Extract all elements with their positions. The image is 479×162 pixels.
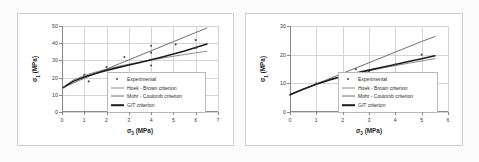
data-point-marker bbox=[106, 66, 108, 68]
legend-item-label: Hoek - Brown criterion bbox=[358, 84, 407, 93]
x-tick-label: 5 bbox=[172, 117, 175, 123]
chart-panel-left: ExperimentalHoek - Brown criterionMohr -… bbox=[17, 13, 234, 146]
legend-item-label: GIT criterion bbox=[127, 101, 154, 110]
x-tick-label: 3 bbox=[368, 117, 371, 123]
line-icon bbox=[342, 96, 355, 97]
y-tick bbox=[59, 60, 62, 61]
dot-icon bbox=[116, 78, 118, 80]
x-tick bbox=[448, 112, 449, 115]
legend-item: Experimental bbox=[111, 75, 202, 84]
x-tick-label: 0 bbox=[289, 117, 292, 123]
legend-item: GIT criterion bbox=[342, 101, 434, 110]
dot-icon bbox=[347, 78, 349, 80]
x-tick-label: 1 bbox=[83, 117, 86, 123]
y-tick bbox=[59, 112, 62, 113]
legend-marker-icon bbox=[111, 75, 124, 83]
x-axis-title: σ3 (MPa) bbox=[356, 127, 382, 136]
x-tick-label: 1 bbox=[315, 117, 318, 123]
y-axis-title: σ1 (MPa) bbox=[259, 56, 268, 82]
x-tick bbox=[316, 112, 317, 115]
line-icon bbox=[111, 96, 124, 97]
line-icon bbox=[111, 104, 124, 106]
y-tick-label: 50 bbox=[46, 23, 58, 29]
data-point-marker bbox=[123, 56, 125, 58]
y-axis-title: σ1 (MPa) bbox=[31, 56, 40, 82]
x-tick-label: 2 bbox=[341, 117, 344, 123]
x-tick bbox=[151, 112, 152, 115]
x-tick bbox=[129, 112, 130, 115]
y-tick bbox=[59, 78, 62, 79]
x-tick bbox=[107, 112, 108, 115]
legend-item: Hoek - Brown criterion bbox=[342, 84, 434, 93]
legend-line-icon bbox=[342, 92, 355, 100]
legend-item-label: Mohr - Coulomb criterion bbox=[127, 92, 182, 101]
y-tick bbox=[287, 55, 290, 56]
data-point-marker bbox=[150, 65, 152, 67]
x-tick-label: 6 bbox=[447, 117, 450, 123]
x-tick-label: 7 bbox=[217, 117, 220, 123]
x-tick bbox=[343, 112, 344, 115]
y-tick bbox=[59, 43, 62, 44]
x-tick-label: 0 bbox=[61, 117, 64, 123]
y-tick-label: 0 bbox=[274, 109, 286, 115]
legend-item-label: GIT criterion bbox=[358, 101, 385, 110]
y-tick-label: 0 bbox=[46, 109, 58, 115]
y-tick bbox=[287, 83, 290, 84]
data-point-marker bbox=[195, 39, 197, 41]
legend-item: GIT criterion bbox=[111, 101, 202, 110]
x-tick-label: 3 bbox=[127, 117, 130, 123]
legend-item: Mohr - Coulomb criterion bbox=[342, 92, 434, 101]
data-point-marker bbox=[150, 52, 152, 54]
legend-item: Hoek - Brown criterion bbox=[111, 84, 202, 93]
x-tick bbox=[196, 112, 197, 115]
legend-line-icon bbox=[342, 101, 355, 109]
data-point-marker bbox=[88, 80, 90, 82]
data-point-marker bbox=[150, 45, 152, 47]
legend-item: Experimental bbox=[342, 75, 434, 84]
legend-line-icon bbox=[111, 92, 124, 100]
y-tick bbox=[287, 112, 290, 113]
data-point-marker bbox=[195, 47, 197, 49]
legend-left: ExperimentalHoek - Brown criterionMohr -… bbox=[107, 72, 206, 113]
x-tick bbox=[290, 112, 291, 115]
y-tick-label: 10 bbox=[46, 92, 58, 98]
legend-item-label: Experimental bbox=[127, 75, 156, 84]
legend-item: Mohr - Coulomb criterion bbox=[111, 92, 202, 101]
y-tick bbox=[59, 26, 62, 27]
x-tick bbox=[395, 112, 396, 115]
legend-line-icon bbox=[342, 84, 355, 92]
y-tick bbox=[287, 26, 290, 27]
line-icon bbox=[342, 104, 355, 106]
x-tick bbox=[173, 112, 174, 115]
legend-marker-icon bbox=[342, 75, 355, 83]
legend-line-icon bbox=[111, 84, 124, 92]
data-point-marker bbox=[175, 43, 177, 45]
x-tick-label: 6 bbox=[194, 117, 197, 123]
data-point-marker bbox=[315, 82, 317, 84]
x-tick-label: 2 bbox=[105, 117, 108, 123]
x-tick-label: 5 bbox=[420, 117, 423, 123]
data-point-marker bbox=[355, 68, 357, 70]
data-point-marker bbox=[394, 63, 396, 65]
chart-panel-right: ExperimentalHoek - Brown criterionMohr -… bbox=[245, 13, 463, 146]
line-icon bbox=[111, 87, 124, 88]
data-point-marker bbox=[421, 54, 423, 56]
legend-item-label: Mohr - Coulomb criterion bbox=[358, 92, 413, 101]
x-tick-label: 4 bbox=[394, 117, 397, 123]
y-tick-label: 30 bbox=[274, 23, 286, 29]
data-point-marker bbox=[63, 86, 65, 88]
x-tick bbox=[422, 112, 423, 115]
figure-root: ExperimentalHoek - Brown criterionMohr -… bbox=[0, 0, 479, 162]
legend-item-label: Hoek - Brown criterion bbox=[127, 84, 176, 93]
x-tick bbox=[369, 112, 370, 115]
y-tick-label: 10 bbox=[274, 80, 286, 86]
y-tick-label: 20 bbox=[46, 75, 58, 81]
y-tick-label: 40 bbox=[46, 40, 58, 46]
y-tick bbox=[59, 95, 62, 96]
x-tick bbox=[62, 112, 63, 115]
y-tick-label: 30 bbox=[46, 57, 58, 63]
legend-right: ExperimentalHoek - Brown criterionMohr -… bbox=[338, 72, 438, 113]
x-tick bbox=[218, 112, 219, 115]
x-tick-label: 4 bbox=[150, 117, 153, 123]
x-tick bbox=[84, 112, 85, 115]
